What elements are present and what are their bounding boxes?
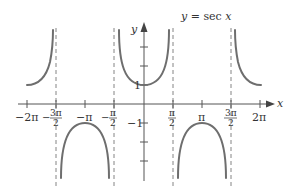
y-tick-neg-1: −1: [127, 117, 143, 130]
x-tick-pi: π: [198, 111, 205, 124]
x-tick-3half-pi-num: 3π: [225, 108, 237, 118]
x-tick-neg-half-pi-minus: −: [101, 112, 109, 123]
y-tick-1: 1: [134, 79, 141, 92]
branch-5: [235, 30, 261, 85]
x-tick-neg-half-pi-num: π: [110, 108, 116, 118]
title-x: x: [225, 10, 232, 23]
x-tick-2pi: 2π: [252, 111, 266, 124]
branch-4: [178, 123, 226, 178]
title-eq: = sec: [187, 10, 225, 23]
x-tick-half-pi-den: 2: [169, 118, 175, 128]
x-tick-neg-half-pi-den: 2: [110, 118, 116, 128]
x-tick-neg-pi: −π: [76, 111, 92, 124]
y-axis-arrow-icon: [141, 22, 148, 32]
y-axis-label: y: [130, 23, 138, 36]
x-axis-arrow-icon: [266, 101, 275, 108]
chart-title: y = sec x: [180, 10, 232, 23]
x-tick-3half-pi-den: 2: [228, 118, 234, 128]
x-tick-neg-3half-pi-num: 3π: [50, 108, 62, 118]
branch-2: [61, 123, 109, 178]
branch-1: [27, 30, 53, 85]
x-axis-label: x: [277, 97, 284, 110]
x-tick-neg-3half-pi-den: 2: [53, 118, 59, 128]
x-tick-neg-2pi: −2π: [15, 111, 38, 124]
sec-graph: y = sec x x y 1 −1 −2π − 3π 2 −π − π 2 π…: [0, 0, 289, 195]
x-tick-half-pi-num: π: [169, 108, 175, 118]
